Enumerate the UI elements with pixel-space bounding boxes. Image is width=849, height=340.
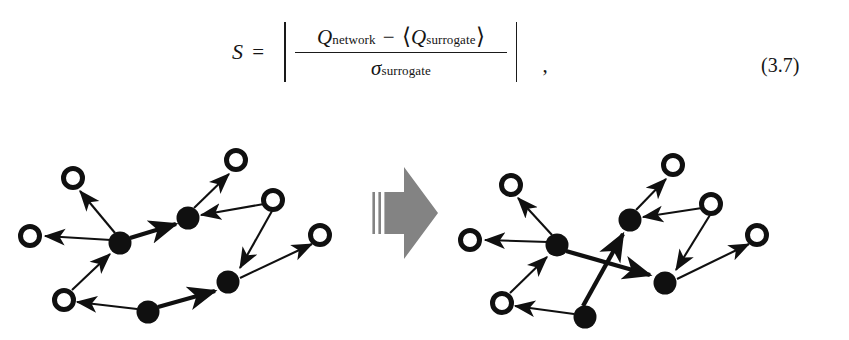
node-open	[264, 191, 283, 210]
node-open	[502, 176, 521, 195]
node-filled	[109, 232, 132, 255]
edge	[485, 240, 548, 242]
edge	[80, 191, 115, 233]
fraction: Qnetwork − ⟨ Qsurrogate⟩ σsurrogate	[295, 22, 507, 82]
node-open	[493, 294, 512, 313]
edge	[77, 302, 137, 309]
edge	[583, 234, 623, 306]
node-open	[461, 231, 480, 250]
network-figure-svg	[0, 118, 849, 340]
edge	[194, 174, 229, 208]
edge	[158, 291, 215, 307]
node-open	[64, 169, 83, 188]
edge	[643, 208, 702, 217]
node-open	[227, 151, 246, 170]
angle-bracket-open-icon: ⟨	[402, 23, 411, 50]
edge	[72, 254, 110, 290]
edge	[201, 204, 264, 215]
absolute-value-group: Qnetwork − ⟨ Qsurrogate⟩ σsurrogate	[275, 22, 526, 82]
node-open	[748, 226, 767, 245]
node-open	[311, 226, 330, 245]
node-filled	[177, 207, 200, 230]
right-network-nodes	[461, 156, 767, 329]
node-open	[664, 156, 683, 175]
node-filled	[619, 209, 642, 232]
minus-operator: −	[376, 25, 402, 50]
edge	[676, 215, 710, 270]
node-filled	[137, 301, 160, 324]
equation-block: S = Qnetwork − ⟨ Qsurrogate⟩ σsurrogate …	[0, 0, 849, 118]
node-filled	[546, 234, 569, 257]
edge	[518, 198, 552, 235]
block-arrow-body	[370, 167, 438, 259]
network-transformation-figure	[0, 118, 849, 340]
block-arrow-stripe	[369, 192, 372, 234]
fraction-numerator: Qnetwork − ⟨ Qsurrogate⟩	[311, 23, 491, 52]
numerator-first-symbol: Q	[317, 25, 332, 50]
thick-block-arrow-icon	[369, 167, 438, 259]
node-open	[21, 227, 40, 246]
absolute-value-bar-right	[516, 22, 518, 82]
denominator-symbol: σ	[371, 56, 382, 81]
display-equation: S = Qnetwork − ⟨ Qsurrogate⟩ σsurrogate …	[232, 22, 548, 82]
edge	[240, 211, 272, 268]
node-open	[702, 195, 721, 214]
equation-number: (3.7)	[761, 54, 799, 77]
node-filled	[217, 271, 240, 294]
edge	[130, 224, 176, 238]
node-filled	[654, 272, 677, 295]
absolute-value-bar-left	[284, 22, 286, 82]
equation-lhs-symbol: S	[232, 39, 252, 65]
node-filled	[574, 306, 597, 329]
numerator-second-symbol: Q	[411, 25, 426, 50]
fraction-denominator: σsurrogate	[365, 53, 437, 81]
angle-bracket-close-icon: ⟩	[476, 23, 485, 50]
edge	[510, 257, 547, 293]
left-network-group	[21, 151, 330, 324]
edge	[636, 179, 666, 210]
equals-sign: =	[252, 40, 275, 65]
node-open	[55, 291, 74, 310]
right-network-group	[461, 156, 767, 329]
edge	[45, 236, 111, 240]
edge	[515, 306, 574, 314]
equation-trailing-comma: ,	[526, 53, 547, 82]
block-arrow-stripe	[381, 192, 384, 234]
block-arrow-stripe	[375, 192, 378, 234]
